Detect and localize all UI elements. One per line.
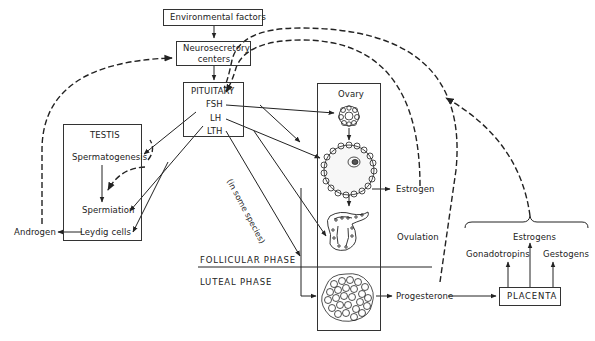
gonadotropins-label: Gonadotropins <box>466 250 530 259</box>
ovary-label: Ovary <box>338 90 364 99</box>
ovulation-label: Ovulation <box>397 233 439 242</box>
fsh-label: FSH <box>206 100 223 109</box>
environmental-factors-label: Environmental factors <box>170 13 266 22</box>
pituitary-label: PITUITARY <box>191 87 234 96</box>
centers-label: centers <box>183 55 245 64</box>
progesterone-label: Progesterone <box>396 292 453 301</box>
estrogen-label: Estrogen <box>396 185 434 194</box>
estrogens-label: Estrogens <box>513 233 556 242</box>
spermiation-label: Spermiation <box>82 206 135 215</box>
luteal-phase-label: LUTEAL PHASE <box>200 278 272 287</box>
placenta-label: PLACENTA <box>507 292 557 301</box>
ovary-box <box>317 83 381 331</box>
neurosecretory-label: Neurosecretory <box>183 44 245 53</box>
androgen-label: Androgen <box>14 228 56 237</box>
testis-box <box>63 124 142 241</box>
follicular-phase-label: FOLLICULAR PHASE <box>200 256 296 265</box>
gestogens-label: Gestogens <box>543 250 589 259</box>
spermatogenesis-label: Spermatogenesis <box>72 153 147 162</box>
leydig-cells-label: Leydig cells <box>80 228 131 237</box>
testis-label: TESTIS <box>90 131 120 140</box>
lth-label: LTH <box>207 127 222 136</box>
lh-label: LH <box>210 114 221 123</box>
